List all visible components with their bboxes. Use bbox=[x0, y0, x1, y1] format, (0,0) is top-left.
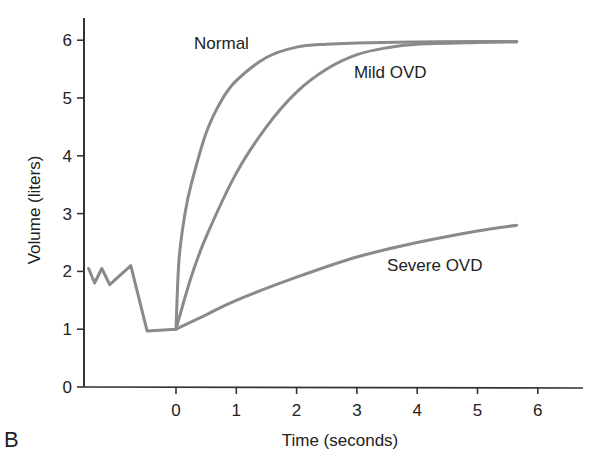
y-tick-label: 3 bbox=[63, 205, 72, 224]
x-axis-line bbox=[84, 387, 583, 388]
annotation-normal: Normal bbox=[194, 34, 249, 53]
y-axis-title: Volume (liters) bbox=[25, 156, 44, 265]
series-normal bbox=[176, 41, 517, 329]
series-mild-ovd bbox=[176, 42, 517, 329]
series-severe-ovd bbox=[176, 225, 517, 329]
x-tick-label: 0 bbox=[171, 401, 180, 420]
x-axis-title: Time (seconds) bbox=[282, 431, 399, 450]
y-tick-label: 6 bbox=[63, 31, 72, 50]
panel-label: B bbox=[4, 427, 19, 452]
annotation-severe-ovd: Severe OVD bbox=[387, 256, 482, 275]
x-tick-label: 1 bbox=[232, 401, 241, 420]
x-tick-label: 3 bbox=[352, 401, 361, 420]
series-tidal-breathing-preparation bbox=[89, 266, 176, 331]
y-tick-label: 1 bbox=[63, 320, 72, 339]
y-tick-label: 2 bbox=[63, 262, 72, 281]
x-tick-label: 4 bbox=[412, 401, 421, 420]
y-tick-label: 4 bbox=[63, 147, 72, 166]
x-tick-label: 5 bbox=[473, 401, 482, 420]
axes: 01234560123456Time (seconds)Volume (lite… bbox=[25, 18, 583, 450]
series-lines bbox=[89, 41, 517, 331]
y-tick-label: 0 bbox=[63, 378, 72, 397]
y-tick-label: 5 bbox=[63, 89, 72, 108]
volume-time-chart: 01234560123456Time (seconds)Volume (lite… bbox=[0, 0, 601, 475]
x-tick-label: 2 bbox=[292, 401, 301, 420]
x-tick-label: 6 bbox=[533, 401, 542, 420]
annotation-mild-ovd: Mild OVD bbox=[354, 63, 427, 82]
